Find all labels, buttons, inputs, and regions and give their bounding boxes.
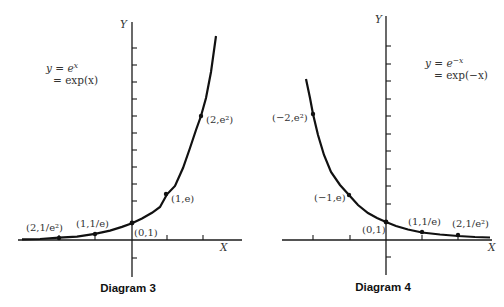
point-origin [130, 221, 135, 226]
equation-line-1: y = ex [45, 61, 79, 74]
label-point-1: (1,1/e) [408, 216, 441, 227]
label-point-neg2: (2,1/e²) [26, 222, 63, 233]
y-axis-label: Y [375, 13, 383, 25]
label-point-origin: (0,1) [134, 227, 158, 238]
equation-line-2: = exp(x) [53, 74, 98, 86]
point-neg2 [57, 236, 61, 240]
label-point-neg1: (1,1/e) [76, 218, 109, 229]
point-1 [164, 192, 168, 196]
diagrams-canvas: (2,1/e²) (1,1/e) (0,1) (1,e) (2,e²) Y X … [0, 0, 504, 307]
label-point-neg2: (−2,e²) [272, 112, 308, 123]
y-axis-ticks [386, 46, 391, 257]
y-axis-label: Y [120, 18, 128, 30]
diagram-4-caption: Diagram 4 [355, 281, 411, 293]
point-neg1 [347, 193, 351, 197]
point-neg2 [311, 112, 315, 116]
exp-neg-curve [306, 79, 490, 238]
label-point-origin: (0,1) [362, 224, 386, 235]
label-point-2: (2,e²) [206, 114, 233, 125]
x-axis-label: X [219, 241, 228, 253]
x-axis-label: X [487, 241, 496, 253]
label-point-neg1: (−1,e) [314, 192, 346, 203]
point-2 [199, 114, 203, 118]
point-2 [456, 233, 460, 237]
diagram-4: (−2,e²) (−1,e) (0,1) (1,1/e) (2,1/e²) Y … [272, 13, 496, 293]
label-point-1: (1,e) [171, 193, 194, 204]
equation-line-1: y = e−x [424, 56, 464, 69]
equation-line-2: = exp(−x) [434, 69, 488, 81]
point-neg1 [93, 232, 97, 236]
diagram-3-caption: Diagram 3 [100, 282, 156, 294]
label-point-2: (2,1/e²) [452, 218, 489, 229]
diagram-3: (2,1/e²) (1,1/e) (0,1) (1,e) (2,e²) Y X … [18, 18, 242, 294]
point-1 [420, 230, 424, 234]
